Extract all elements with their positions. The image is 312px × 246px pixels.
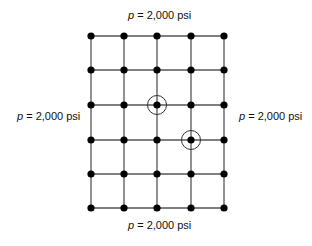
grid-node xyxy=(220,66,227,73)
grid-node xyxy=(120,101,127,108)
grid-node xyxy=(153,101,160,108)
grid-node xyxy=(120,204,127,211)
grid-node xyxy=(220,32,227,39)
grid-node xyxy=(120,170,127,177)
grid-node xyxy=(120,32,127,39)
right-boundary-label: p = 2,000 psi xyxy=(239,110,302,122)
grid-node xyxy=(153,136,160,143)
grid-node xyxy=(87,204,94,211)
left-boundary-label: p = 2,000 psi xyxy=(17,110,80,122)
grid-node xyxy=(153,204,160,211)
top-boundary-label: p = 2,000 psi xyxy=(128,9,191,21)
top-label-text: = 2,000 psi xyxy=(134,9,191,21)
right-label-text: = 2,000 psi xyxy=(245,110,302,122)
grid-node xyxy=(120,136,127,143)
grid-node xyxy=(220,101,227,108)
bottom-boundary-label: p = 2,000 psi xyxy=(128,219,191,231)
grid-node xyxy=(187,170,194,177)
grid-node xyxy=(220,170,227,177)
grid-node xyxy=(153,66,160,73)
grid-node xyxy=(187,204,194,211)
grid-node xyxy=(87,101,94,108)
grid-node xyxy=(87,66,94,73)
grid-node xyxy=(187,101,194,108)
grid-node xyxy=(153,170,160,177)
node-grid xyxy=(0,0,312,246)
grid-node xyxy=(87,170,94,177)
grid-node xyxy=(87,136,94,143)
grid-node xyxy=(187,66,194,73)
bottom-label-text: = 2,000 psi xyxy=(134,219,191,231)
grid-node xyxy=(220,204,227,211)
grid-node xyxy=(220,136,227,143)
grid-node xyxy=(120,66,127,73)
grid-node xyxy=(87,32,94,39)
grid-node xyxy=(187,136,194,143)
grid-node xyxy=(187,32,194,39)
grid-node xyxy=(153,32,160,39)
left-label-text: = 2,000 psi xyxy=(23,110,80,122)
